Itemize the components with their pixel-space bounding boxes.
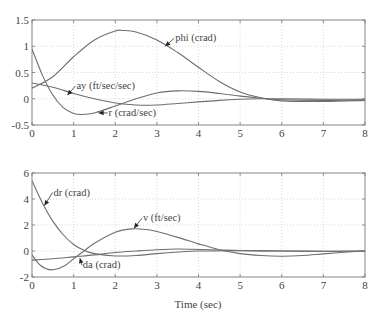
x-tick-label: 7 [321, 279, 327, 291]
annotation-label: phi (crad) [175, 32, 217, 44]
x-tick-label: 5 [237, 279, 243, 291]
y-tick-label: 1 [24, 40, 30, 52]
y-tick-label: 1.5 [15, 14, 29, 26]
arrow-head-icon [134, 223, 139, 228]
annotation-label: dr (crad) [53, 187, 90, 199]
annotation-label: r (crad/sec) [109, 107, 157, 119]
x-tick-label: 8 [362, 279, 368, 291]
annotation-ay: ay (ft/sec/sec) [67, 80, 135, 95]
x-tick-label: 5 [237, 127, 243, 139]
x-tick-label: 3 [154, 279, 160, 291]
bottom-plot-panel: 012345678-20246dr (crad)v (ft/sec)da (cr… [20, 167, 368, 291]
x-tick-label: 7 [321, 127, 327, 139]
x-tick-label: 4 [196, 127, 202, 139]
x-tick-label: 2 [113, 279, 119, 291]
annotation-dr: dr (crad) [44, 187, 90, 206]
x-tick-label: 1 [71, 279, 77, 291]
x-axis-label: Time (sec) [175, 298, 222, 311]
annotation-phi: phi (crad) [165, 32, 217, 46]
x-tick-label: 3 [154, 127, 160, 139]
y-tick-label: 0.5 [15, 67, 29, 79]
y-tick-label: -2 [20, 271, 29, 283]
annotation-da: da (crad) [79, 258, 121, 271]
x-tick-label: 1 [71, 127, 77, 139]
y-tick-label: 2 [24, 219, 30, 231]
top-plot-panel: 012345678-0.500.511.5phi (crad)ay (ft/se… [12, 14, 369, 139]
y-tick-label: 0 [24, 93, 30, 105]
y-tick-label: 0 [24, 245, 30, 257]
annotation-v: v (ft/sec) [134, 212, 181, 228]
y-tick-label: 6 [24, 167, 30, 179]
y-tick-label: -0.5 [12, 119, 30, 131]
annotation-label: da (crad) [83, 259, 121, 271]
x-tick-label: 6 [279, 127, 285, 139]
x-tick-label: 0 [29, 127, 35, 139]
annotation-label: ay (ft/sec/sec) [76, 80, 135, 92]
annotation-label: v (ft/sec) [143, 212, 181, 224]
x-tick-label: 2 [113, 127, 119, 139]
figure: 012345678-0.500.511.5phi (crad)ay (ft/se… [0, 0, 380, 314]
y-tick-label: 4 [24, 193, 30, 205]
x-tick-label: 6 [279, 279, 285, 291]
x-tick-label: 4 [196, 279, 202, 291]
x-tick-label: 0 [29, 279, 35, 291]
arrow-head-icon [44, 200, 49, 206]
x-tick-label: 8 [362, 127, 368, 139]
